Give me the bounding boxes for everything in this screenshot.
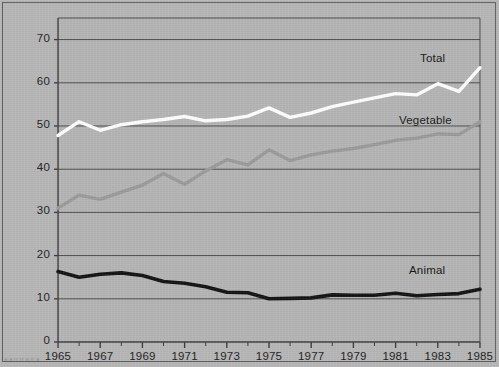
x-axis-tick-label-1981: 1981	[372, 350, 420, 362]
y-axis-tick-label-40: 40	[16, 161, 50, 173]
y-axis-tick-label-0: 0	[16, 334, 50, 346]
y-axis-tick-label-70: 70	[16, 32, 50, 44]
y-axis-tick-label-30: 30	[16, 204, 50, 216]
x-axis-tick-label-1983: 1983	[414, 350, 462, 362]
y-axis-tick-label-60: 60	[16, 75, 50, 87]
x-axis-tick-label-1979: 1979	[329, 350, 377, 362]
y-axis-tick-label-50: 50	[16, 118, 50, 130]
chart-figure: 0102030405060701965196719691971197319751…	[0, 0, 499, 367]
x-axis-tick-label-1975: 1975	[245, 350, 293, 362]
series-label-vegetable: Vegetable	[399, 114, 452, 126]
x-axis-tick-label-1977: 1977	[287, 350, 335, 362]
caption-fragment: a a rr rr a rr a	[4, 356, 184, 365]
y-axis-tick-label-10: 10	[16, 291, 50, 303]
x-axis-tick-label-1985: 1985	[456, 350, 499, 362]
series-label-animal: Animal	[409, 264, 445, 276]
x-axis-tick-label-1973: 1973	[203, 350, 251, 362]
y-axis-tick-label-20: 20	[16, 248, 50, 260]
plot-area	[58, 18, 480, 342]
series-label-total: Total	[420, 52, 445, 64]
